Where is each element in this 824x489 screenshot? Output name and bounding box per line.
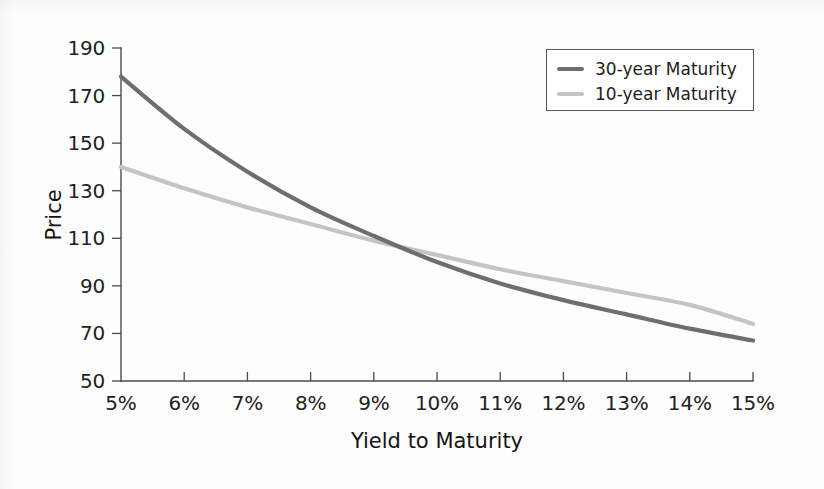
x-axis-title: Yield to Maturity [121,429,753,453]
y-tick-label: 170 [67,84,105,108]
x-tick-label: 14% [668,391,712,415]
x-tick-label: 13% [605,391,649,415]
y-axis-title: Price [42,189,66,240]
legend-label-10-year: 10-year Maturity [595,84,737,104]
x-tick-label: 10% [415,391,459,415]
y-tick-label: 150 [67,131,105,155]
y-tick-label: 110 [67,226,105,250]
x-tick-label: 12% [541,391,585,415]
x-tick-label: 15% [731,391,775,415]
x-tick-label: 11% [478,391,522,415]
x-tick-label: 8% [295,391,326,415]
bond-price-yield-chart: 507090110130150170190 5%6%7%8%9%10%11%12… [0,0,824,489]
x-tick-label: 9% [358,391,389,415]
series-line-30-year-maturity [121,77,753,341]
y-tick-label: 190 [67,36,105,60]
data-series [121,77,753,341]
legend-label-30-year: 30-year Maturity [595,59,737,79]
y-axis-ticks [112,48,121,381]
legend-entry-10-year: 10-year Maturity [557,81,753,106]
series-line-10-year-maturity [121,167,753,324]
chart-legend: 30-year Maturity 10-year Maturity [546,49,754,111]
y-tick-label: 70 [80,321,105,345]
legend-swatch-10-year [557,92,584,96]
x-tick-label: 6% [169,391,200,415]
x-tick-label: 5% [105,391,136,415]
y-tick-label: 90 [80,274,105,298]
legend-entry-30-year: 30-year Maturity [557,56,753,81]
y-tick-label: 130 [67,179,105,203]
x-axis-ticks [184,372,753,381]
legend-swatch-30-year [557,67,584,71]
y-tick-label: 50 [80,369,105,393]
x-tick-label: 7% [232,391,263,415]
